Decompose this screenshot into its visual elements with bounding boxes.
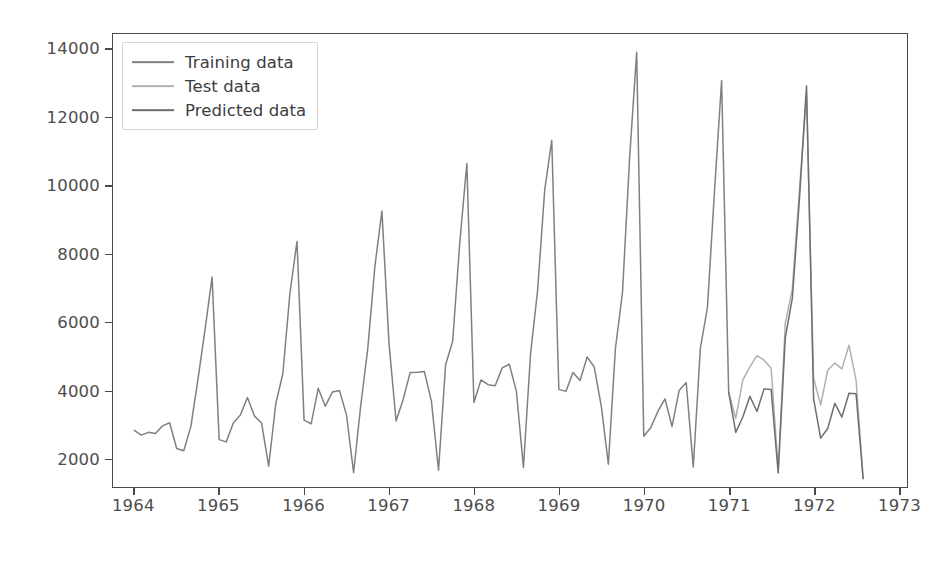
y-axis-tick-label: 4000 <box>57 381 100 400</box>
y-axis-tick-labels: 2000400060008000100001200014000 <box>0 0 100 583</box>
y-axis-tick-label: 8000 <box>57 244 100 263</box>
x-axis-tick-mark <box>559 488 560 495</box>
x-axis-tick-label: 1969 <box>538 496 581 515</box>
x-axis-tick-label: 1972 <box>793 496 836 515</box>
x-axis-tick-mark <box>304 488 305 495</box>
legend-entry-test-data: Test data <box>132 74 306 98</box>
legend-entry-training-data: Training data <box>132 50 306 74</box>
x-axis-tick-mark <box>474 488 475 495</box>
line-swatch-icon <box>132 54 174 70</box>
y-axis-tick-mark <box>105 48 112 49</box>
y-axis-tick-mark <box>105 322 112 323</box>
y-axis-tick-label: 10000 <box>47 176 101 195</box>
x-axis-tick-mark <box>133 488 134 495</box>
y-axis-tick-mark <box>105 117 112 118</box>
x-axis-tick-label: 1964 <box>112 496 155 515</box>
x-axis-tick-label: 1973 <box>878 496 921 515</box>
x-axis-tick-label: 1965 <box>197 496 240 515</box>
x-axis-tick-mark <box>814 488 815 495</box>
x-axis-tick-mark <box>218 488 219 495</box>
legend-label: Test data <box>185 77 261 96</box>
x-axis-tick-label: 1967 <box>367 496 410 515</box>
line-swatch-icon <box>132 102 174 118</box>
y-axis-tick-mark <box>105 391 112 392</box>
x-axis-tick-label: 1970 <box>623 496 666 515</box>
x-axis-tick-label: 1966 <box>282 496 325 515</box>
legend-label: Training data <box>185 53 294 72</box>
legend-entry-predicted-data: Predicted data <box>132 98 306 122</box>
y-axis-tick-label: 12000 <box>47 107 101 126</box>
x-axis-tick-label: 1971 <box>708 496 751 515</box>
matplotlib-figure: 2000400060008000100001200014000 Training… <box>0 0 941 583</box>
plot-area: Training data Test data Predicted data <box>112 33 908 488</box>
y-axis-tick-mark <box>105 185 112 186</box>
x-axis-tick-mark <box>389 488 390 495</box>
x-axis-tick-mark <box>729 488 730 495</box>
series-line-test-data <box>729 95 863 478</box>
y-axis-tick-mark <box>105 459 112 460</box>
x-axis-tick-mark <box>899 488 900 495</box>
line-swatch-icon <box>132 78 174 94</box>
x-axis-tick-label: 1968 <box>452 496 495 515</box>
y-axis-tick-label: 14000 <box>47 39 101 58</box>
y-axis-tick-label: 6000 <box>57 313 100 332</box>
y-axis-tick-label: 2000 <box>57 449 100 468</box>
x-axis-tick-mark <box>644 488 645 495</box>
series-line-predicted-data <box>729 86 863 479</box>
y-axis-tick-mark <box>105 254 112 255</box>
legend-label: Predicted data <box>185 101 306 120</box>
chart-legend: Training data Test data Predicted data <box>122 42 318 130</box>
